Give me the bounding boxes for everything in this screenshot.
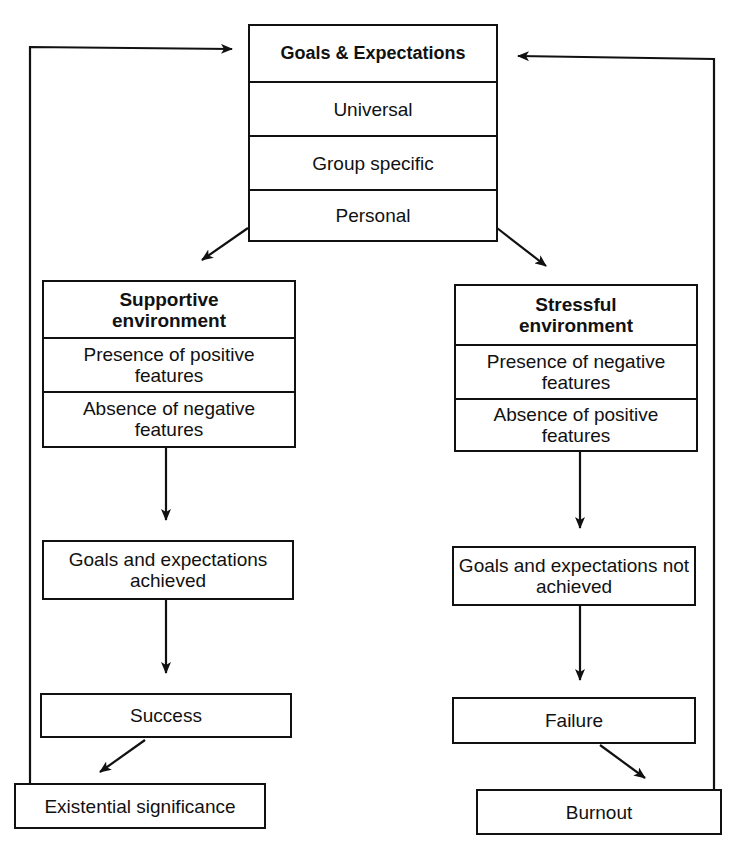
supportive-environment-title: Supportive environment: [44, 282, 294, 337]
existential-significance-box: Existential significance: [14, 783, 266, 829]
success-box: Success: [40, 693, 292, 738]
failure-box: Failure: [452, 697, 696, 744]
goals-expectations-title: Goals & Expectations: [250, 26, 496, 81]
burnout-box: Burnout: [476, 789, 722, 835]
absence-positive-features: Absence of positive features: [456, 398, 696, 450]
goal-type-personal: Personal: [250, 189, 496, 239]
goal-type-universal: Universal: [250, 81, 496, 135]
goals-achieved-box: Goals and expectations achieved: [42, 540, 294, 600]
goals-not-achieved-box: Goals and expectations not achieved: [452, 546, 696, 606]
supportive-environment-box: Supportive environment Presence of posit…: [42, 280, 296, 448]
presence-positive-features: Presence of positive features: [44, 337, 294, 391]
goal-type-group-specific: Group specific: [250, 135, 496, 189]
presence-negative-features: Presence of negative features: [456, 344, 696, 398]
absence-negative-features: Absence of negative features: [44, 391, 294, 445]
goals-expectations-box: Goals & Expectations Universal Group spe…: [248, 24, 498, 242]
stressful-environment-box: Stressful environment Presence of negati…: [454, 284, 698, 452]
stressful-environment-title: Stressful environment: [456, 286, 696, 344]
